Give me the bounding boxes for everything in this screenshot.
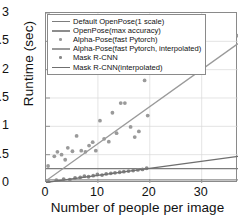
legend-line-swatch-icon (51, 44, 71, 53)
y-tick-label: 1 (0, 119, 9, 132)
legend-item: Alpha-Pose(fast Pytorch, interpolated) (51, 44, 201, 53)
legend-item: Alpha-Pose(fast Pytorch) (51, 35, 201, 44)
y-tick-label: 2.5 (0, 34, 9, 47)
x-tick-label: 10 (77, 186, 117, 199)
y-axis-label: Runtime (sec) (21, 0, 36, 134)
legend-marker-swatch-icon (51, 53, 71, 62)
legend-item: Mask R-CNN(interpolated) (51, 62, 201, 71)
legend-item: Default OpenPose(1 scale) (51, 17, 201, 26)
legend-item-label: Alpha-Pose(fast Pytorch) (71, 35, 157, 44)
y-tick-label: 2 (0, 63, 9, 76)
legend-item-label: Default OpenPose(1 scale) (71, 17, 164, 26)
y-tick-label: 3 (0, 6, 9, 19)
legend-item: OpenPose(max accuracy) (51, 26, 201, 35)
x-tick-label: 0 (25, 186, 65, 199)
y-tick-label: 0.5 (0, 148, 9, 161)
y-tick-label: 0 (0, 176, 9, 189)
legend-item-label: Mask R-CNN(interpolated) (71, 63, 162, 72)
chart-legend: Default OpenPose(1 scale)OpenPose(max ac… (47, 14, 206, 75)
x-tick-label: 30 (181, 186, 221, 199)
legend-line-swatch-icon (51, 63, 71, 72)
x-tick-label: 20 (129, 186, 169, 199)
y-tick-label: 1.5 (0, 91, 9, 104)
legend-item-label: Alpha-Pose(fast Pytorch, interpolated) (71, 44, 201, 53)
legend-marker-swatch-icon (51, 35, 71, 44)
runtime-scatter-figure: Runtime (sec) Number of people per image… (0, 0, 250, 223)
legend-item-label: Mask R-CNN (71, 53, 118, 62)
legend-line-swatch-icon (51, 26, 71, 35)
legend-item-label: OpenPose(max accuracy) (71, 26, 161, 35)
x-axis-label: Number of people per image (30, 200, 245, 215)
legend-item: Mask R-CNN (51, 53, 201, 62)
legend-line-swatch-icon (51, 17, 71, 26)
